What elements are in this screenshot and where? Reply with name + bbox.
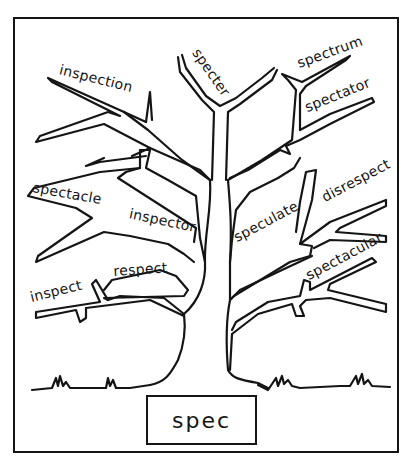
ground-line xyxy=(32,376,150,390)
root-word-box: spec xyxy=(146,395,257,445)
root-word-label: spec xyxy=(172,408,231,433)
word-tree-diagram: inspection specter spectrum spectator sp… xyxy=(0,0,414,470)
word-respect: respect xyxy=(113,260,168,278)
trunk-right-edge xyxy=(227,180,268,388)
